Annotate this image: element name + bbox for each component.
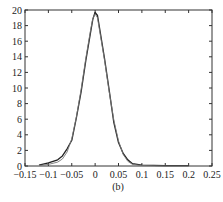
x-tick-label: −0.1 [39, 169, 57, 180]
y-tick-label: 14 [12, 51, 22, 62]
x-tick-label: 0.05 [110, 169, 128, 180]
y-tick-label: 4 [17, 129, 22, 140]
y-tick-label: 20 [12, 5, 22, 16]
series-fitted [39, 14, 189, 166]
y-tick-label: 8 [17, 98, 22, 109]
x-tick-label: 0.15 [157, 169, 175, 180]
y-tick-label: 12 [12, 67, 22, 78]
series-lines [39, 12, 189, 166]
x-tick-label: −0.15 [13, 169, 36, 180]
x-tick-label: 0.1 [136, 169, 149, 180]
y-tick-label: 18 [12, 20, 22, 31]
x-tick-label: −0.05 [60, 169, 83, 180]
density-chart: 02468101214161820 −0.15−0.1−0.0500.050.1… [0, 0, 223, 202]
y-tick-label: 16 [12, 36, 22, 47]
y-tick-label: 10 [12, 83, 22, 94]
x-axis: −0.15−0.1−0.0500.050.10.150.20.25 [13, 10, 220, 180]
x-tick-label: 0.2 [182, 169, 195, 180]
y-tick-label: 6 [17, 114, 22, 125]
series-empirical [39, 12, 189, 165]
y-axis: 02468101214161820 [12, 5, 212, 172]
y-tick-label: 2 [17, 145, 22, 156]
x-tick-label: 0 [93, 169, 98, 180]
x-tick-label: 0.25 [203, 169, 221, 180]
chart-caption: (b) [112, 181, 124, 193]
